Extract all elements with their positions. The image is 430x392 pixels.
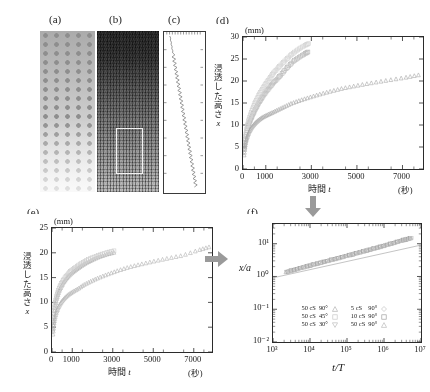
- tick-label-y: 5: [218, 141, 239, 151]
- chart-f-x-label: t/T: [332, 361, 344, 373]
- legend-right-fluid: 50 cS: [349, 320, 366, 328]
- tick-label-y: 20: [218, 75, 239, 85]
- tick-label-x: 7000: [176, 354, 210, 364]
- tick-label-x: 3000: [95, 354, 129, 364]
- plot-panel-c: [163, 31, 206, 194]
- photo-a-fade: [40, 31, 95, 192]
- legend-left-angle: 90°: [317, 304, 329, 312]
- chart-d-x-label: 時間 t: [308, 182, 331, 195]
- legend-left-angle: 30°: [317, 320, 329, 328]
- legend-right-fluid: 5 cS: [349, 304, 366, 312]
- chart-e-x-unit: (秒): [188, 366, 203, 378]
- legend-marker-triangle-open-icon: [379, 320, 390, 328]
- chart-panel-f: x/a 10⁻²10⁻¹10⁰10¹ 10³10⁴10⁵10⁶10⁷ t/T 5…: [240, 214, 430, 389]
- tick-label-x: 10³: [257, 344, 287, 354]
- panel-c-trace: [164, 32, 203, 191]
- chart-panel-d: (mm) 浸透した高さ x 051015202530 0100030005000…: [212, 24, 430, 196]
- arrow-e-to-f-icon: [205, 250, 229, 268]
- photo-panel-b: [97, 31, 159, 192]
- tick-label-y: 25: [27, 222, 48, 232]
- tick-label-y: 10: [218, 119, 239, 129]
- tick-label-x: 10⁷: [405, 344, 430, 354]
- chart-panel-e: (mm) 浸透した高さ x 0510152025 010003000500070…: [22, 214, 222, 384]
- legend-marker-square-open-icon: [379, 312, 390, 320]
- legend-right-angle: 90°: [367, 320, 379, 328]
- legend-left-fluid: 50 cS: [300, 320, 317, 328]
- tick-label-y: 5: [27, 321, 48, 331]
- legend-right-angle: 90°: [367, 304, 379, 312]
- legend-marker-square-open-icon: [329, 312, 340, 320]
- chart-d-plot-frame: [242, 36, 424, 170]
- tick-label-x: 3000: [293, 171, 327, 181]
- chart-d-y-unit: (mm): [245, 25, 264, 35]
- tick-label-y: 10⁻¹: [240, 302, 269, 312]
- legend-marker-diamond-open-icon: [379, 304, 390, 312]
- tick-label-x: 5000: [339, 171, 373, 181]
- legend-row: 50 cS 90° 5 cS 90°: [300, 304, 390, 312]
- tick-label-x: 10⁵: [331, 344, 361, 354]
- legend-left-fluid: 50 cS: [300, 304, 317, 312]
- tick-label-y: 25: [218, 53, 239, 63]
- tick-label-y: 15: [218, 97, 239, 107]
- arrow-d-to-f-icon: [303, 196, 323, 218]
- tick-label-x: 1000: [248, 171, 282, 181]
- tick-label-y: 10: [27, 296, 48, 306]
- tick-label-y: 10⁰: [240, 269, 269, 279]
- legend-left-angle: 45°: [317, 312, 329, 320]
- legend-marker-triangle-open-icon: [329, 304, 340, 312]
- legend-marker-triangle-down-open-icon: [329, 320, 340, 328]
- chart-e-y-label: 浸透した高さ x: [22, 252, 33, 316]
- chart-e-y-unit: (mm): [54, 216, 73, 226]
- tick-label-y: 15: [27, 272, 48, 282]
- chart-e-plot-frame: [51, 227, 213, 353]
- tick-label-y: 30: [218, 31, 239, 41]
- chart-d-x-unit: (秒): [398, 183, 413, 195]
- legend-row: 50 cS 30° 50 cS 90°: [300, 320, 390, 328]
- legend-left-fluid: 50 cS: [300, 312, 317, 320]
- chart-f-legend: 50 cS 90° 5 cS 90° 50 cS 45° 10 cS 90° 5…: [300, 304, 390, 329]
- tick-label-x: 7000: [384, 171, 418, 181]
- tick-label-x: 1000: [54, 354, 88, 364]
- legend-right-fluid: 10 cS: [349, 312, 366, 320]
- legend-row: 50 cS 45° 10 cS 90°: [300, 312, 390, 320]
- tick-label-x: 5000: [135, 354, 169, 364]
- tick-label-y: 10¹: [240, 237, 269, 247]
- panel-label-c: (c): [168, 13, 180, 25]
- tick-label-y: 20: [27, 247, 48, 257]
- roi-rectangle: [116, 128, 143, 174]
- panel-label-a: (a): [49, 13, 61, 25]
- photo-panel-a: [40, 31, 95, 192]
- legend-right-angle: 90°: [367, 312, 379, 320]
- chart-e-x-label: 時間 t: [108, 365, 131, 378]
- tick-label-x: 10⁴: [294, 344, 324, 354]
- panel-label-b: (b): [109, 13, 122, 25]
- tick-label-x: 10⁶: [368, 344, 398, 354]
